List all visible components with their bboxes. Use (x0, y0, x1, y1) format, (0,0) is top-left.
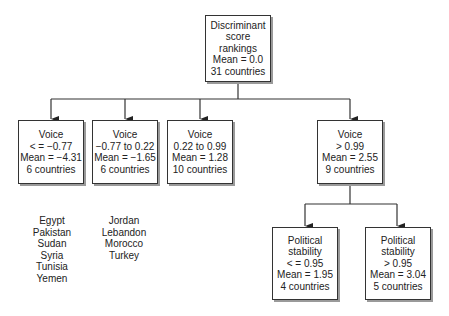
political-stability-node-2: Political stability > 0.95 Mean = 3.04 5… (365, 227, 431, 300)
node-range: < = 0.95 (287, 258, 324, 270)
node-count: 6 countries (27, 164, 76, 176)
node-label: Voice (113, 129, 137, 141)
node-range: > 0.95 (384, 258, 412, 270)
node-label: Voice (188, 129, 212, 141)
node-range: 0.22 to 0.99 (174, 141, 227, 153)
node-label: Voice (39, 129, 63, 141)
country-list-1: Egypt Pakistan Sudan Syria Tunisia Yemen (22, 215, 82, 284)
root-node: Discriminant score rankings Mean = 0.0 3… (205, 15, 271, 82)
node-count: 9 countries (326, 164, 375, 176)
political-stability-node-1: Political stability < = 0.95 Mean = 1.95… (272, 227, 338, 300)
node-range: −0.77 to 0.22 (96, 141, 155, 153)
node-label: Voice (338, 129, 362, 141)
node-label: Political (288, 235, 322, 247)
country: Yemen (22, 273, 82, 285)
node-label: stability (288, 246, 321, 258)
node-count: 10 countries (173, 164, 227, 176)
node-count: 4 countries (281, 281, 330, 293)
node-range: > 0.99 (336, 141, 364, 153)
country: Jordan (94, 215, 154, 227)
node-mean: Mean = −1.65 (94, 152, 156, 164)
voice-node-3: Voice 0.22 to 0.99 Mean = 1.28 10 countr… (167, 120, 233, 184)
root-line-1: Discriminant (210, 20, 265, 32)
country: Syria (22, 250, 82, 262)
country: Tunisia (22, 261, 82, 273)
node-range: < = −0.77 (30, 141, 73, 153)
node-mean: Mean = 1.95 (277, 269, 333, 281)
country: Egypt (22, 215, 82, 227)
root-line-3: rankings (219, 43, 257, 55)
country-list-2: Jordan Lebandon Morocco Turkey (94, 215, 154, 261)
country: Pakistan (22, 227, 82, 239)
node-count: 6 countries (101, 164, 150, 176)
country: Turkey (94, 250, 154, 262)
node-mean: Mean = 2.55 (322, 152, 378, 164)
root-line-2: score (226, 31, 250, 43)
root-line-4: Mean = 0.0 (213, 54, 263, 66)
node-count: 5 countries (374, 281, 423, 293)
root-line-5: 31 countries (211, 66, 265, 78)
voice-node-1: Voice < = −0.77 Mean = −4.31 6 countries (18, 120, 84, 184)
voice-node-2: Voice −0.77 to 0.22 Mean = −1.65 6 count… (92, 120, 158, 184)
country: Sudan (22, 238, 82, 250)
country: Morocco (94, 238, 154, 250)
node-label: stability (381, 246, 414, 258)
node-label: Political (381, 235, 415, 247)
country: Lebandon (94, 227, 154, 239)
node-mean: Mean = 3.04 (370, 269, 426, 281)
voice-node-4: Voice > 0.99 Mean = 2.55 9 countries (317, 120, 383, 184)
node-mean: Mean = 1.28 (172, 152, 228, 164)
node-mean: Mean = −4.31 (20, 152, 82, 164)
